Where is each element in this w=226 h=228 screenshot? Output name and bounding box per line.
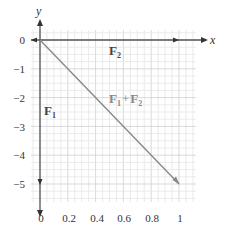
x-tick-labels: 0 0.2 0.4 0.6 0.8 1 — [38, 212, 183, 224]
y-tick-3: −3 — [13, 121, 25, 133]
y-axis-label: y — [35, 4, 42, 18]
y-tick-1: −1 — [13, 63, 25, 75]
x-tick-1: 0.2 — [62, 212, 76, 224]
x-axis — [31, 37, 208, 43]
f2-arrowhead-icon — [173, 38, 179, 43]
x-tick-4: 0.8 — [145, 212, 159, 224]
sum-label: F1+F2 — [109, 91, 142, 108]
y-tick-2: −2 — [13, 92, 25, 104]
vector-diagram: x y 0 −1 −2 −3 −4 −5 0 0.2 0.4 0.6 0.8 1… — [0, 0, 226, 228]
y-tick-labels: 0 −1 −2 −3 −4 −5 — [13, 34, 25, 190]
x-axis-arrow-icon — [201, 37, 208, 43]
x-tick-5: 1 — [177, 212, 183, 224]
x-tick-2: 0.4 — [90, 212, 104, 224]
y-axis — [37, 19, 43, 217]
origin-marker-icon — [31, 38, 37, 43]
y-tick-0: 0 — [20, 34, 26, 46]
y-tick-5: −5 — [13, 178, 25, 190]
y-axis-arrow-icon — [37, 19, 43, 26]
x-tick-0: 0 — [38, 212, 44, 224]
y-tick-4: −4 — [13, 149, 25, 161]
x-axis-label: x — [209, 33, 216, 47]
f2-label: F2 — [109, 43, 121, 60]
x-tick-3: 0.6 — [117, 212, 131, 224]
